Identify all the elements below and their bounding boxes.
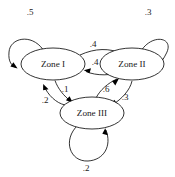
diagram-canvas: Zone I Zone II Zone III .5 .3 .2 .4 .4 .… xyxy=(0,0,175,177)
edge-zone3-zone3 xyxy=(69,125,108,161)
edge-label-zone2-zone2: .3 xyxy=(145,7,152,17)
edge-zone3-zone1-arrowhead xyxy=(43,84,48,90)
zone-transition-graph: Zone I Zone II Zone III .5 .3 .2 .4 .4 .… xyxy=(0,0,175,177)
node-zone3[interactable]: Zone III xyxy=(60,97,124,129)
edge-label-zone3-zone1: .2 xyxy=(42,95,49,105)
edge-label-zone2-zone3: .3 xyxy=(122,92,129,102)
edge-label-zone1-zone1: .5 xyxy=(27,7,34,17)
edge-label-zone2-zone1: .4 xyxy=(92,57,99,67)
edge-label-zone1-zone2: .4 xyxy=(90,39,97,49)
node-zone2[interactable]: Zone II xyxy=(100,48,164,80)
node-zone1[interactable]: Zone I xyxy=(21,48,85,80)
edge-label-zone1-zone3: .1 xyxy=(62,84,69,94)
node-zone3-label: Zone III xyxy=(77,108,107,118)
self-loop-zone3-path xyxy=(69,125,108,161)
node-zone2-label: Zone II xyxy=(118,59,145,69)
self-loop-zone1-arrowhead xyxy=(10,62,17,68)
edge-label-zone3-zone3: .2 xyxy=(83,163,90,173)
edge-label-zone3-zone2: .6 xyxy=(103,84,110,94)
node-zone1-label: Zone I xyxy=(41,59,65,69)
